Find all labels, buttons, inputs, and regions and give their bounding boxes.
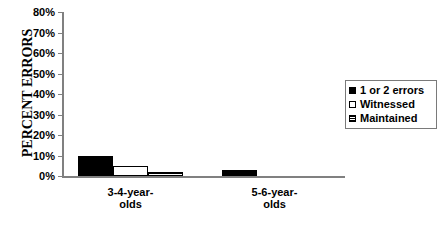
legend-label: 1 or 2 errors — [360, 85, 424, 96]
y-tick-label: 30% — [33, 109, 55, 121]
y-tick-label: 20% — [33, 129, 55, 141]
y-tick-mark — [58, 74, 62, 75]
y-tick-mark — [58, 94, 62, 95]
legend-label: Witnessed — [360, 99, 415, 110]
bar-0-1 — [113, 166, 148, 176]
y-tick-mark — [58, 135, 62, 136]
bar-1-0 — [222, 170, 257, 176]
y-tick-label: 50% — [33, 68, 55, 80]
bar-0-0 — [78, 156, 113, 177]
legend-label: Maintained — [360, 113, 417, 124]
category-label-line2: olds — [108, 198, 154, 210]
y-axis-line — [62, 12, 64, 178]
y-tick-label: 60% — [33, 47, 55, 59]
y-tick-label: 0% — [39, 170, 55, 182]
category-label-line1: 5-6-year- — [252, 186, 298, 198]
category-label-1: 5-6-year-olds — [252, 186, 298, 210]
category-label-0: 3-4-year-olds — [108, 186, 154, 210]
y-tick-label: 70% — [33, 27, 55, 39]
legend: 1 or 2 errorsWitnessedMaintained — [345, 80, 437, 129]
legend-swatch-icon — [349, 115, 356, 122]
y-tick-mark — [58, 53, 62, 54]
y-tick-mark — [58, 115, 62, 116]
legend-swatch-icon — [349, 101, 356, 108]
y-tick-label: 40% — [33, 88, 55, 100]
category-label-line2: olds — [252, 198, 298, 210]
legend-swatch-icon — [349, 87, 356, 94]
y-tick-label: 10% — [33, 150, 55, 162]
bar-chart: PERCENT ERRORS 80%70%60%50%40%30%20%10%0… — [0, 0, 444, 225]
y-tick-mark — [58, 176, 62, 177]
legend-item-1[interactable]: Witnessed — [349, 98, 433, 111]
y-tick-mark — [58, 156, 62, 157]
plot-area: 80%70%60%50%40%30%20%10%0% 3-4-year-olds… — [62, 12, 345, 178]
category-label-line1: 3-4-year- — [108, 186, 154, 198]
y-tick-label: 80% — [33, 6, 55, 18]
x-axis-line — [62, 176, 345, 178]
legend-item-2[interactable]: Maintained — [349, 112, 433, 125]
y-tick-mark — [58, 33, 62, 34]
y-tick-mark — [58, 12, 62, 13]
legend-item-0[interactable]: 1 or 2 errors — [349, 84, 433, 97]
bar-0-2 — [148, 172, 183, 176]
